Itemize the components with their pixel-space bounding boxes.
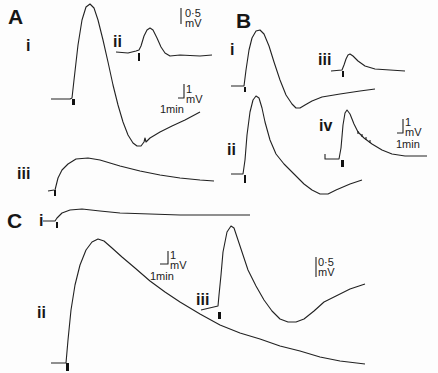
trace-label-b-iii: iii [318, 52, 331, 68]
figure: A i ii iii 0·5 mV 1 mV 1min B i ii iii i… [0, 0, 438, 373]
trace-label-c-ii: ii [37, 305, 46, 321]
panel-label-a: A [8, 6, 23, 27]
stimulus-marker-c-iii [218, 312, 221, 319]
trace-label-a-iii: iii [17, 166, 30, 182]
panel-label-b: B [236, 10, 251, 31]
trace-label-c-iii: iii [196, 292, 209, 308]
stimulus-marker-a-ii [138, 53, 140, 61]
scalebar-unit: mV [186, 94, 203, 104]
trace-b-i [231, 30, 375, 108]
stimulus-marker-a-iii [54, 190, 56, 196]
trace-label-a-i: i [26, 38, 30, 54]
scalebar-unit: mV [185, 18, 202, 28]
stimulus-marker-b-ii [244, 175, 246, 183]
trace-label-c-i: i [39, 213, 43, 229]
scalebar-label-b: 1 mV [405, 117, 422, 137]
scalebar-label-c-ii: 1 mV [170, 250, 187, 270]
scalebar-b [397, 119, 403, 133]
trace-label-b-iv: iv [319, 118, 332, 134]
scalebar-label-a-i: 1 mV [186, 84, 203, 104]
trace-label-b-ii: ii [227, 142, 236, 158]
scalebar-unit: mV [170, 260, 187, 270]
scalebar-c-ii [160, 251, 168, 264]
trace-label-a-ii: ii [113, 34, 122, 50]
trace-a-i [51, 4, 200, 146]
traces-layer [0, 0, 438, 373]
stimulus-marker-b-i [244, 87, 246, 92]
scalebar-unit: mV [405, 127, 422, 137]
stimulus-marker-c-i [56, 222, 58, 228]
scalebar-a-i [178, 84, 184, 98]
trace-a-iii [55, 158, 214, 190]
trace-a-ii [116, 28, 212, 56]
panel-label-c: C [7, 210, 22, 231]
stimulus-marker-a-i [72, 99, 75, 105]
scalebar-unit: mV [318, 267, 335, 277]
trace-label-b-i: i [230, 42, 234, 58]
trace-c-i [43, 209, 250, 221]
stimulus-marker-b-iv [341, 160, 344, 167]
scalebar-label-c-iii: 0·5 mV [318, 257, 335, 277]
scalebar-time-b: 1min [396, 139, 420, 149]
trace-c-iii [201, 226, 365, 322]
trace-b-iii [331, 54, 405, 71]
scalebar-time-c-ii: 1min [150, 271, 174, 281]
stimulus-marker-c-ii [66, 363, 69, 371]
scalebar-label-a-ii: 0·5 mV [185, 8, 202, 28]
stimulus-marker-b-iii [342, 71, 344, 77]
scalebar-time-a-i: 1min [160, 104, 184, 114]
trace-b-ii [231, 96, 362, 194]
